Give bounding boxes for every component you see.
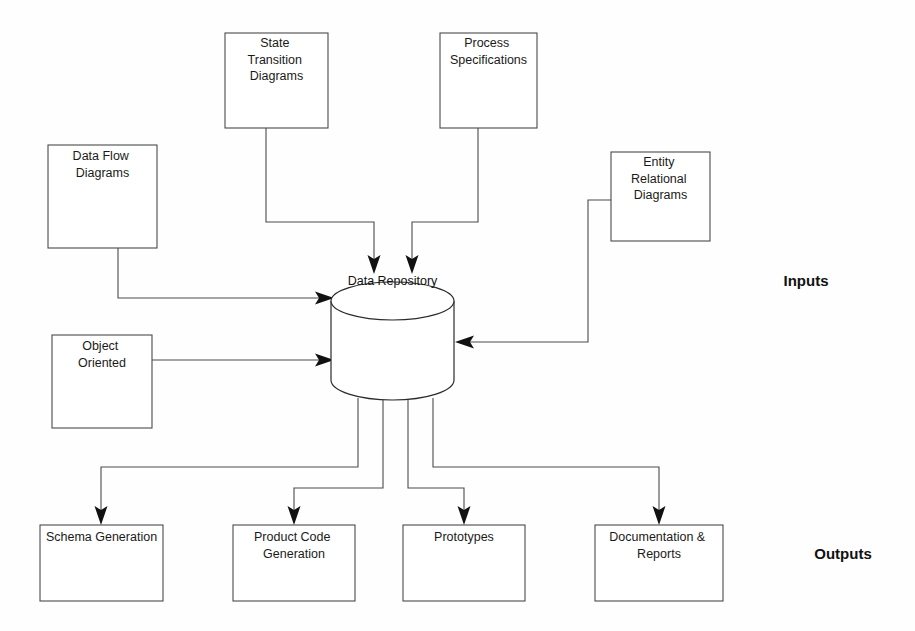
node-documentation-and-reports[interactable]: Documentation & Reports (595, 525, 723, 601)
node-data-flow-diagrams[interactable]: Data Flow Diagrams (48, 145, 157, 248)
connector-entity-relational-to-repository (467, 200, 611, 342)
section-label-outputs: Outputs (814, 545, 872, 562)
node-state-transition-diagrams[interactable]: State Transition Diagrams (225, 33, 328, 128)
node-object-oriented[interactable]: Object Oriented (52, 335, 152, 428)
data-repository-label: Data Repository (348, 274, 438, 288)
data-repository-diagram: State Transition Diagrams Process Specif… (0, 0, 915, 631)
node-schema-generation[interactable]: Schema Generation (40, 525, 163, 601)
output-connectors (95, 398, 666, 525)
node-process-specifications[interactable]: Process Specifications (440, 33, 537, 128)
data-repository-node[interactable]: Data Repository (331, 274, 454, 400)
connector-state-transition-to-repository (266, 128, 374, 262)
node-entity-relational-diagrams[interactable]: Entity Relational Diagrams (611, 152, 710, 241)
node-label-prototypes: Prototypes (434, 530, 494, 544)
connector-repository-to-product-code-generation (294, 398, 383, 513)
connector-repository-to-prototypes (408, 398, 464, 513)
diagram-canvas-container: State Transition Diagrams Process Specif… (0, 0, 915, 631)
section-label-inputs: Inputs (784, 272, 829, 289)
node-product-code-generation[interactable]: Product Code Generation (233, 525, 355, 601)
output-nodes: Schema Generation Product Code Generatio… (40, 525, 723, 601)
connector-data-flow-to-repository (118, 248, 322, 298)
connector-repository-to-documentation-reports (433, 398, 659, 513)
node-label-schema-generation: Schema Generation (46, 530, 157, 544)
node-prototypes[interactable]: Prototypes (403, 525, 525, 601)
connector-process-spec-to-repository (412, 128, 478, 262)
